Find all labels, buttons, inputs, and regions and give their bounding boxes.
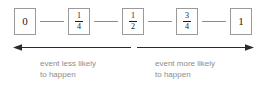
- right-arrow-icon: [137, 44, 254, 51]
- scale-point-one-quarter: 1 4: [68, 8, 90, 35]
- scale-point-one: 1: [230, 8, 252, 35]
- scale-point-one-value: 1: [238, 16, 244, 27]
- fraction-three-quarters-denominator: 4: [185, 23, 189, 31]
- caption-event-more-likely: event more likely to happen: [155, 58, 260, 80]
- fraction-one-quarter-denominator: 4: [77, 23, 81, 31]
- fraction-one-half-numerator: 1: [131, 12, 135, 20]
- fraction-one-half: 1 2: [129, 12, 137, 31]
- scale-point-zero: 0: [14, 8, 36, 35]
- fraction-one-quarter-numerator: 1: [77, 12, 81, 20]
- caption-event-less-likely: event less likely to happen: [40, 58, 140, 80]
- probability-scale-diagram: 0 1 4 1 2 3 4 1: [0, 0, 268, 92]
- scale-point-one-half: 1 2: [122, 8, 144, 35]
- fraction-three-quarters-numerator: 3: [185, 12, 189, 20]
- axis-arrows: [0, 40, 268, 54]
- fraction-one-quarter: 1 4: [75, 12, 83, 31]
- scale-point-three-quarters: 3 4: [176, 8, 198, 35]
- left-arrow-icon: [13, 44, 131, 51]
- fraction-one-half-denominator: 2: [131, 23, 135, 31]
- scale-point-zero-value: 0: [22, 16, 28, 27]
- fraction-three-quarters: 3 4: [183, 12, 191, 31]
- scale-points-row: 0 1 4 1 2 3 4 1: [0, 8, 268, 37]
